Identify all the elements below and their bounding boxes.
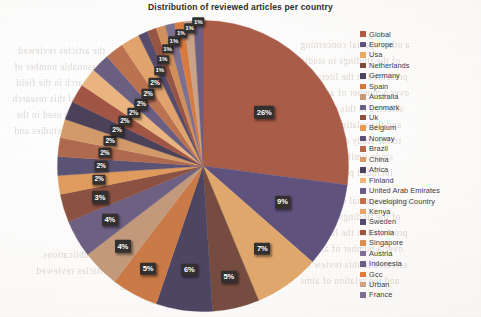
legend-color-swatch bbox=[360, 167, 366, 173]
legend-item-label: China bbox=[369, 156, 389, 163]
legend-color-swatch bbox=[360, 188, 366, 194]
legend-item: Norway bbox=[360, 133, 478, 143]
legend-item: Developing Country bbox=[360, 196, 478, 206]
legend-item: China bbox=[360, 154, 478, 164]
legend-item: Uk bbox=[360, 113, 478, 123]
legend-item-label: Gcc bbox=[369, 271, 382, 278]
pie-slice-label: 2% bbox=[127, 108, 140, 118]
legend-item-label: Brazil bbox=[369, 145, 388, 152]
legend-item: Sweden bbox=[360, 217, 478, 227]
legend-item: Denmark bbox=[360, 102, 478, 112]
legend-color-swatch bbox=[360, 73, 366, 79]
legend-item: Gcc bbox=[360, 269, 478, 279]
legend-item: Spain bbox=[360, 81, 478, 91]
pie-slice-label: 6% bbox=[181, 264, 197, 277]
legend-item-label: Global bbox=[369, 31, 391, 38]
legend-color-swatch bbox=[360, 52, 366, 58]
legend-color-swatch bbox=[360, 272, 366, 278]
legend-item-label: Denmark bbox=[369, 104, 399, 111]
pie-slice-label: 26% bbox=[254, 106, 274, 119]
legend-item-label: Indonesia bbox=[369, 260, 402, 267]
legend-item-label: United Arab Emirates bbox=[369, 187, 440, 194]
legend-item-label: Kenya bbox=[369, 208, 390, 215]
legend-color-swatch bbox=[360, 230, 366, 236]
legend-item: Australia bbox=[360, 92, 478, 102]
legend-item-label: Estonia bbox=[369, 229, 394, 236]
legend-item-label: Europe bbox=[369, 41, 393, 48]
pie-slice-label: 2% bbox=[104, 136, 117, 146]
legend-item-label: Sweden bbox=[369, 218, 396, 225]
legend-item: Brazil bbox=[360, 144, 478, 154]
legend-color-swatch bbox=[360, 178, 366, 184]
chart-legend: GlobalEuropeUsaNetherlandsGermanySpainAu… bbox=[360, 29, 478, 300]
pie-slice-label: 1% bbox=[154, 66, 166, 75]
legend-color-swatch bbox=[360, 198, 366, 204]
legend-item-label: Singapore bbox=[369, 239, 403, 246]
legend-color-swatch bbox=[360, 219, 366, 225]
legend-color-swatch bbox=[360, 282, 366, 288]
legend-item-label: Spain bbox=[369, 83, 388, 90]
pie-slice-label: 2% bbox=[98, 148, 111, 158]
legend-item: Estonia bbox=[360, 227, 478, 237]
pie-slice-label: 5% bbox=[221, 270, 237, 283]
legend-item-label: France bbox=[369, 291, 392, 298]
legend-item: Austria bbox=[360, 248, 478, 258]
pie-slice-label: 1% bbox=[192, 17, 204, 26]
legend-color-swatch bbox=[360, 84, 366, 90]
legend-color-swatch bbox=[360, 63, 366, 69]
legend-color-swatch bbox=[360, 209, 366, 215]
pie-slice-label: 9% bbox=[275, 196, 291, 209]
page-title: Distribution of reviewed articles per co… bbox=[0, 2, 481, 12]
pie-slice-label: 2% bbox=[148, 78, 161, 88]
legend-item: Belgium bbox=[360, 123, 478, 133]
legend-item: United Arab Emirates bbox=[360, 186, 478, 196]
pie-slice-label: 2% bbox=[142, 89, 155, 99]
legend-item-label: Uk bbox=[369, 114, 378, 121]
pie-slice-label: 2% bbox=[135, 99, 148, 109]
legend-color-swatch bbox=[360, 157, 366, 163]
legend-item: Europe bbox=[360, 39, 478, 49]
legend-item: Singapore bbox=[360, 238, 478, 248]
legend-color-swatch bbox=[360, 146, 366, 152]
legend-item-label: Developing Country bbox=[369, 198, 435, 205]
pie-slice-label: 1% bbox=[157, 55, 169, 64]
pie-slice-label: 5% bbox=[140, 262, 156, 275]
legend-color-swatch bbox=[360, 136, 366, 142]
legend-color-swatch bbox=[360, 240, 366, 246]
pie-slice-label: 7% bbox=[254, 243, 270, 256]
legend-color-swatch bbox=[360, 105, 366, 111]
legend-item: Global bbox=[360, 29, 478, 39]
legend-item: Germany bbox=[360, 71, 478, 81]
pie-slice-label: 2% bbox=[110, 125, 123, 135]
legend-item-label: Norway bbox=[369, 135, 394, 142]
legend-color-swatch bbox=[360, 94, 366, 100]
legend-color-swatch bbox=[360, 251, 366, 257]
legend-item: Urban bbox=[360, 280, 478, 290]
legend-color-swatch bbox=[360, 31, 366, 37]
legend-item-label: Austria bbox=[369, 250, 392, 257]
legend-color-swatch bbox=[360, 292, 366, 298]
legend-color-swatch bbox=[360, 125, 366, 131]
legend-color-swatch bbox=[360, 42, 366, 48]
legend-item: Netherlands bbox=[360, 60, 478, 70]
legend-item: Africa bbox=[360, 165, 478, 175]
legend-item-label: Urban bbox=[369, 281, 389, 288]
legend-item-label: Australia bbox=[369, 93, 398, 100]
legend-item-label: Usa bbox=[369, 51, 382, 58]
pie-slice-label: 2% bbox=[93, 174, 106, 184]
legend-item-label: Netherlands bbox=[369, 62, 409, 69]
legend-item: Indonesia bbox=[360, 259, 478, 269]
pie-slice-label: 3% bbox=[92, 191, 108, 204]
pie-chart: 26%9%7%5%6%5%4%4%3%2%2%2%2%2%2%2%2%2%2%1… bbox=[57, 20, 349, 312]
pie-slice-label: 1% bbox=[162, 44, 174, 53]
legend-item: Kenya bbox=[360, 206, 478, 216]
legend-item-label: Finland bbox=[369, 177, 394, 184]
pie-slice bbox=[203, 21, 349, 185]
legend-item: Finland bbox=[360, 175, 478, 185]
pie-slice-label: 2% bbox=[95, 161, 108, 171]
legend-item: Usa bbox=[360, 50, 478, 60]
legend-color-swatch bbox=[360, 261, 366, 267]
legend-item-label: Germany bbox=[369, 72, 400, 79]
legend-item-label: Africa bbox=[369, 166, 388, 173]
pie-slice-label: 4% bbox=[102, 214, 118, 227]
